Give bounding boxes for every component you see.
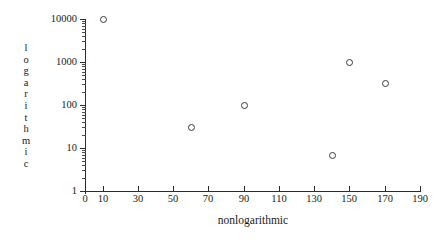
y-axis-minor-tick [82, 36, 86, 37]
x-axis-tick [385, 186, 386, 191]
y-axis-title-char: g [18, 65, 34, 77]
y-axis-title-char: t [18, 112, 34, 124]
x-axis-tick-label: 30 [118, 193, 158, 205]
data-point [188, 124, 195, 131]
x-axis-tick [244, 186, 245, 191]
y-axis-minor-tick [82, 152, 86, 153]
y-axis-minor-tick [82, 49, 86, 50]
x-axis-tick-label: 130 [294, 193, 334, 205]
y-axis-minor-tick [82, 41, 86, 42]
y-axis-minor-tick [82, 170, 86, 171]
x-axis-title: nonlogarithmic [85, 214, 421, 226]
y-axis-title-char: h [18, 123, 34, 135]
y-axis-minor-tick [82, 155, 86, 156]
y-axis-minor-tick [82, 79, 86, 80]
y-axis-title-char: c [18, 158, 34, 170]
y-axis-minor-tick [82, 112, 86, 113]
x-axis-tick-label: 50 [153, 193, 193, 205]
x-axis-tick-label: 170 [365, 193, 405, 205]
y-axis-tick [80, 62, 86, 63]
x-axis-tick [349, 186, 350, 191]
x-axis-tick [208, 186, 209, 191]
y-axis-minor-tick [82, 75, 86, 76]
scatter-plot-figure: 110100100010000 010305070901101301501701… [0, 0, 439, 244]
y-axis-minor-tick [82, 72, 86, 73]
y-axis-title-char: i [18, 146, 34, 158]
y-axis-minor-tick [82, 107, 86, 108]
x-axis-tick [420, 186, 421, 191]
y-axis-minor-tick [82, 84, 86, 85]
y-axis-title: logarithmic [18, 42, 34, 170]
x-axis-tick-label: 190 [400, 193, 439, 205]
x-axis-tick [279, 186, 280, 191]
x-axis-tick [173, 186, 174, 191]
x-axis-tick [314, 186, 315, 191]
x-axis-tick-label: 110 [259, 193, 299, 205]
x-axis-tick-label: 150 [329, 193, 369, 205]
y-axis-minor-tick [82, 118, 86, 119]
y-axis-minor-tick [82, 26, 86, 27]
y-axis-title-char: r [18, 88, 34, 100]
y-axis-minor-tick [82, 158, 86, 159]
x-axis-tick [103, 186, 104, 191]
data-point [382, 80, 389, 87]
y-axis-minor-tick [82, 150, 86, 151]
y-axis-minor-tick [82, 115, 86, 116]
data-point [346, 59, 353, 66]
y-axis-minor-tick [82, 29, 86, 30]
y-axis-tick [80, 148, 86, 149]
y-axis-tick-label: 10000 [17, 13, 77, 24]
data-point [241, 102, 248, 109]
y-axis-minor-tick [82, 32, 86, 33]
y-axis-minor-tick [82, 66, 86, 67]
y-axis-minor-tick [82, 127, 86, 128]
y-axis-title-char: l [18, 42, 34, 54]
y-axis-minor-tick [82, 178, 86, 179]
y-axis-tick [80, 19, 86, 20]
y-axis-minor-tick [82, 21, 86, 22]
y-axis-minor-tick [82, 109, 86, 110]
y-axis-title-char: m [18, 135, 34, 147]
data-point [100, 16, 107, 23]
x-axis-tick-label: 90 [224, 193, 264, 205]
x-axis-tick-label: 10 [83, 193, 123, 205]
x-axis-tick [138, 186, 139, 191]
data-point [329, 152, 336, 159]
y-axis-minor-tick [82, 92, 86, 93]
y-axis-minor-tick [82, 161, 86, 162]
y-axis-title-char: o [18, 54, 34, 66]
y-axis-title-char: i [18, 100, 34, 112]
y-axis-title-char: a [18, 77, 34, 89]
x-axis-spine [85, 191, 421, 192]
y-axis-minor-tick [82, 23, 86, 24]
x-axis-tick-label: 70 [188, 193, 228, 205]
y-axis-minor-tick [82, 69, 86, 70]
y-axis-minor-tick [82, 135, 86, 136]
y-axis-minor-tick [82, 165, 86, 166]
y-axis-tick [80, 105, 86, 106]
y-axis-minor-tick [82, 122, 86, 123]
y-axis-minor-tick [82, 64, 86, 65]
